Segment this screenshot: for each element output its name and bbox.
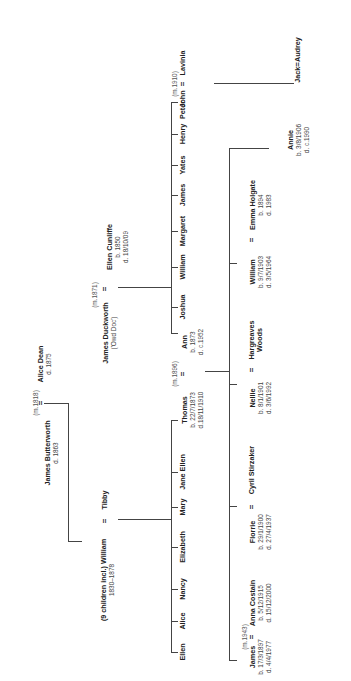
person-james-gc: James b. 17/3/1897 d. 4/4/1977	[249, 639, 272, 675]
child-alice: Alice	[179, 612, 187, 629]
marriage-equals: =	[36, 401, 45, 406]
person-alice-dean: Alice Dean d. 1875	[37, 346, 53, 383]
tick-william-gc	[229, 263, 237, 264]
marriage-equals: =	[247, 505, 256, 510]
connector-william-tibby	[118, 519, 171, 520]
tick-james-gc	[229, 660, 237, 661]
person-john: John	[179, 90, 187, 107]
person-james-butterworth: James Butterworth d. 1863	[44, 420, 60, 485]
person-anna-costain: Anna Costain b. 5/12/1915 d. 15/12/2000	[249, 580, 272, 626]
connector-to-william	[68, 541, 82, 542]
person-tibby: Tibby	[101, 490, 109, 509]
child-joshua: Joshua	[179, 294, 187, 319]
tick-thomas	[171, 420, 178, 421]
person-ellen-cunliffe: Ellen Cunliffe b. 1850 d. 18/10/09	[106, 224, 129, 270]
tick-annie	[229, 148, 269, 149]
person-william-gc: William b. 9/7/1903 d. 3/5/1964	[249, 256, 272, 288]
marriage-equals: =	[247, 238, 256, 243]
connector-thomas-ann	[205, 371, 229, 372]
child-yates: Yates	[179, 156, 187, 175]
person-annie: Annie b. 3/8/1906 d. c.1990	[287, 124, 310, 156]
person-lavinia: Lavinia	[179, 51, 187, 76]
child-ellen: Ellen	[179, 643, 187, 660]
person-nellie: Nellie b. 8/1/1901 d. 3/6/1992	[249, 382, 272, 414]
person-james-duckworth: James Duckworth ('Owd Doc')	[102, 302, 118, 364]
duckworth-children-bar	[171, 102, 172, 334]
person-thomas: Thomas b. 22/7/1873 d.18/11/1910	[181, 392, 204, 429]
person-emma-holgate: Emma Holgate b. 1894 d. 1983	[249, 180, 272, 230]
person-cyril-stirzaker: Cyril Stirzaker	[248, 446, 256, 494]
person-hargreaves-woods: Hargreaves Woods	[248, 320, 265, 359]
child-nancy: Nancy	[179, 578, 187, 600]
child-jane-ellen: Jane Ellen	[179, 454, 187, 490]
child-james: James	[179, 184, 187, 206]
connector-john-lavinia	[214, 83, 294, 84]
connector-butterworth	[44, 403, 69, 404]
tick-nellie	[229, 384, 237, 385]
child-mary: Mary	[179, 499, 187, 516]
child-william: William	[179, 254, 187, 279]
person-jack-audrey: Jack=Audrey	[293, 37, 302, 82]
person-william: (9 children incl.) William 1830–1878	[100, 539, 116, 621]
person-ann: Ann b. 1873 d. c.1952	[181, 329, 204, 355]
tick-florrie	[229, 506, 237, 507]
connector-duckworth	[118, 287, 171, 288]
person-florrie: Florrie b. 29/1/1900 d. 27/4/1937	[249, 514, 272, 550]
child-elizabeth: Elizabeth	[179, 531, 187, 563]
tick-ann	[171, 333, 178, 334]
marriage-equals: =	[247, 635, 256, 640]
marriage-equals: =	[178, 82, 187, 87]
grandchildren-bar	[229, 148, 230, 660]
duckworth-marriage-date: (m.1871)	[91, 282, 98, 308]
child-margaret: Margaret	[179, 216, 187, 246]
marriage-equals: =	[100, 519, 109, 524]
child-henry: Henry	[179, 124, 187, 144]
marriage-equals: =	[178, 372, 187, 377]
butterworth-children-bar	[171, 420, 172, 652]
marriage-equals: =	[247, 368, 256, 373]
marriage-equals: =	[100, 287, 109, 292]
connector-butterworth-drop	[68, 403, 69, 542]
